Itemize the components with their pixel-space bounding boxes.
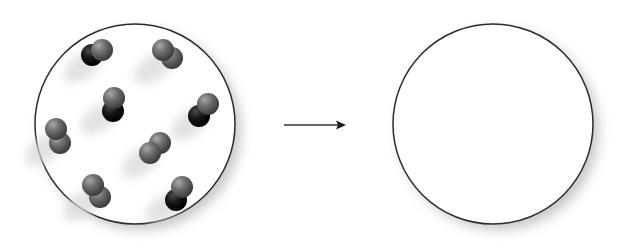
atom-light bbox=[91, 39, 113, 61]
right-container bbox=[393, 24, 599, 230]
atom-light bbox=[197, 93, 219, 115]
right-container-body bbox=[393, 24, 593, 224]
atom-light bbox=[103, 87, 125, 109]
reaction-diagram bbox=[0, 0, 618, 250]
atom-light bbox=[82, 174, 104, 196]
atom-light bbox=[171, 176, 193, 198]
reaction-arrow bbox=[284, 121, 346, 130]
atom-light bbox=[139, 142, 161, 164]
atom-light bbox=[45, 118, 67, 140]
left-container bbox=[19, 24, 241, 230]
molecule bbox=[102, 87, 125, 122]
atom-light bbox=[152, 39, 174, 61]
